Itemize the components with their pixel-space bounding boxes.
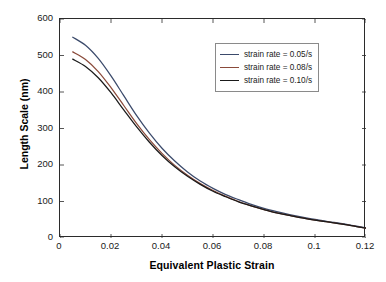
y-tick-label: 600 (15, 13, 53, 23)
legend-label: strain rate = 0.10/s (244, 76, 312, 85)
legend-label: strain rate = 0.08/s (244, 63, 312, 72)
legend-item: strain rate = 0.05/s (220, 48, 313, 61)
x-tick-label: 0 (39, 241, 79, 251)
legend-line-swatch (220, 54, 239, 55)
x-tick-label: 0.08 (243, 241, 283, 251)
chart-figure: 010020030040050060000.020.040.060.080.10… (0, 0, 386, 282)
x-tick-label: 0.06 (192, 241, 232, 251)
x-tick-label: 0.04 (141, 241, 181, 251)
axis-tick-layer: 010020030040050060000.020.040.060.080.10… (0, 0, 386, 282)
legend-label: strain rate = 0.05/s (244, 50, 312, 59)
legend-line-swatch (220, 67, 239, 68)
x-tick-label: 0.12 (345, 241, 385, 251)
legend-item: strain rate = 0.08/s (220, 61, 313, 74)
y-tick-label: 100 (15, 196, 53, 206)
y-axis-title: Length Scale (nm) (18, 54, 30, 194)
legend-item: strain rate = 0.10/s (220, 74, 313, 87)
chart-legend: strain rate = 0.05/s strain rate = 0.08/… (215, 43, 319, 92)
x-tick-label: 0.02 (90, 241, 130, 251)
x-axis-title: Equivalent Plastic Strain (59, 259, 365, 271)
x-tick-label: 0.1 (294, 241, 334, 251)
legend-line-swatch (220, 80, 239, 81)
